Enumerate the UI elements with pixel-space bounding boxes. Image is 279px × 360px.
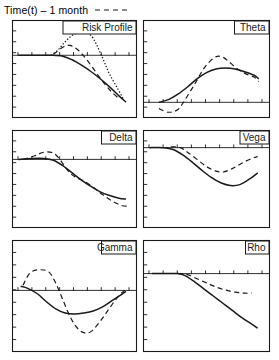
series-dashed [159, 56, 259, 112]
panel-title: Rho [247, 242, 266, 253]
panel-frame [144, 241, 270, 352]
panel-gamma: Gamma [13, 241, 137, 352]
panel-theta: Theta [144, 21, 270, 118]
panel-risk-profile: Risk Profile [13, 21, 137, 118]
panel-frame [13, 21, 137, 118]
panel-vega: Vega [144, 131, 270, 228]
series-solid [18, 158, 126, 199]
greeks-panel-figure: Time(t) – 1 month Risk ProfileThetaDelta… [0, 0, 279, 360]
panel-frame [13, 131, 137, 228]
series-solid [18, 55, 126, 102]
series-dashed [178, 274, 252, 294]
panels-svg: Risk ProfileThetaDeltaVegaGammaRho [0, 0, 279, 360]
panel-title: Delta [109, 132, 133, 143]
panel-title: Theta [240, 22, 266, 33]
series-dashed [23, 152, 127, 206]
panel-delta: Delta [13, 131, 137, 228]
panel-title: Vega [243, 132, 266, 143]
panel-title: Risk Profile [82, 22, 133, 33]
panel-frame [144, 21, 270, 118]
panel-rho: Rho [144, 241, 270, 352]
panel-title: Gamma [97, 242, 133, 253]
series-solid [149, 148, 257, 186]
series-dashed [171, 147, 258, 172]
